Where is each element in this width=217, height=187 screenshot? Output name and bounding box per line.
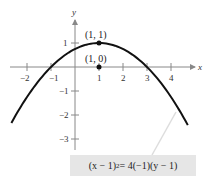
annotation-leader-line <box>152 112 176 155</box>
focus-label: (1, 0) <box>85 53 107 65</box>
x-tick-label: −2 <box>20 73 30 83</box>
equation-rhs: = 4(−1)(y − 1) <box>120 160 178 171</box>
y-axis-label: y <box>71 7 76 17</box>
y-tick-label: −2 <box>59 110 69 120</box>
equation-lhs-base: (x − 1) <box>89 160 116 171</box>
x-tick-label: 2 <box>121 73 126 83</box>
focus-point <box>97 65 102 70</box>
x-tick-label: −1 <box>49 73 59 83</box>
y-tick-label: 1 <box>63 38 68 48</box>
y-tick-label: −3 <box>59 134 69 144</box>
x-tick-label: 1 <box>97 73 102 83</box>
vertex-label: (1, 1) <box>85 29 107 41</box>
equation-label: (x − 1)2 = 4(−1)(y − 1) <box>70 155 196 176</box>
x-tick-label: 4 <box>169 73 174 83</box>
x-tick-label: 3 <box>145 73 150 83</box>
y-tick-label: −1 <box>59 86 69 96</box>
vertex-point <box>97 41 102 46</box>
x-axis-label: x <box>197 62 202 72</box>
